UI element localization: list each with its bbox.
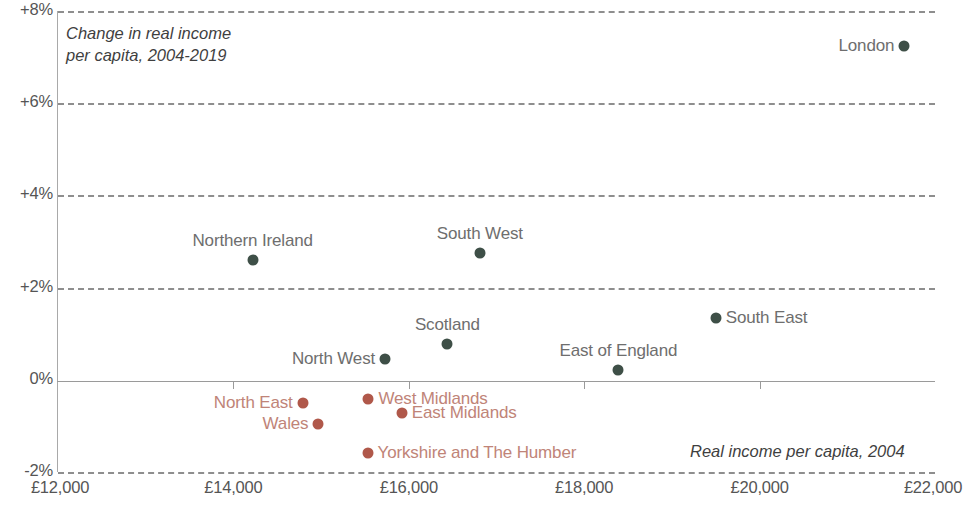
scatter-chart: +8%+6%+4%+2%0%-2% £12,000£14,000£16,000£… xyxy=(0,0,970,506)
y-tick-label-0%: 0% xyxy=(30,369,53,388)
data-point-london[interactable] xyxy=(899,40,910,51)
gridline-6 xyxy=(58,103,935,105)
data-point-east-of-england[interactable] xyxy=(613,364,624,375)
x-tick-label-14000: £14,000 xyxy=(204,478,262,497)
y-axis-title-line-2: per capita, 2004-2019 xyxy=(66,44,231,66)
data-point-label-east-of-england: East of England xyxy=(560,341,678,361)
y-tick-label-+8%: +8% xyxy=(20,0,53,19)
gridline-8 xyxy=(58,11,935,13)
x-tick-mark-14000 xyxy=(233,382,234,389)
data-point-wales[interactable] xyxy=(313,418,324,429)
x-axis-title: Real income per capita, 2004 xyxy=(690,440,905,462)
x-tick-mark-20000 xyxy=(760,382,761,389)
x-tick-label-18000: £18,000 xyxy=(555,478,613,497)
x-tick-label-12000: £12,000 xyxy=(31,478,89,497)
x-tick-label-16000: £16,000 xyxy=(380,478,438,497)
data-point-label-east-midlands: East Midlands xyxy=(412,403,517,423)
data-point-south-east[interactable] xyxy=(710,312,721,323)
data-point-west-midlands[interactable] xyxy=(363,394,374,405)
data-point-label-yorkshire-and-the-humber: Yorkshire and The Humber xyxy=(378,443,577,463)
x-tick-mark-16000 xyxy=(409,382,410,389)
gridline-2 xyxy=(58,288,935,290)
y-tick-label-+2%: +2% xyxy=(20,277,53,296)
data-point-south-west[interactable] xyxy=(474,248,485,259)
data-point-northern-ireland[interactable] xyxy=(247,254,258,265)
data-point-label-scotland: Scotland xyxy=(415,315,480,335)
x-tick-label-22000: £22,000 xyxy=(904,478,962,497)
data-point-label-north-east: North East xyxy=(214,393,293,413)
x-tick-label-20000: £20,000 xyxy=(730,478,788,497)
gridline-4 xyxy=(58,195,935,197)
data-point-north-east[interactable] xyxy=(297,397,308,408)
data-point-label-wales: Wales xyxy=(263,414,309,434)
y-tick-label-+6%: +6% xyxy=(20,92,53,111)
data-point-scotland[interactable] xyxy=(442,338,453,349)
y-tick-label-+4%: +4% xyxy=(20,184,53,203)
data-point-label-south-east: South East xyxy=(726,308,808,328)
x-axis-zero-line xyxy=(57,381,935,382)
data-point-label-south-west: South West xyxy=(437,224,523,244)
data-point-yorkshire-and-the-humber[interactable] xyxy=(362,447,373,458)
data-point-label-north-west: North West xyxy=(292,349,375,369)
x-tick-mark-18000 xyxy=(584,382,585,389)
data-point-label-northern-ireland: Northern Ireland xyxy=(192,231,312,251)
y-axis-title: Change in real income per capita, 2004-2… xyxy=(66,22,231,67)
data-point-north-west[interactable] xyxy=(380,354,391,365)
y-axis-title-line-1: Change in real income xyxy=(66,22,231,44)
gridline--2 xyxy=(58,472,935,474)
data-point-label-london: London xyxy=(838,36,894,56)
data-point-east-midlands[interactable] xyxy=(396,407,407,418)
y-axis-line xyxy=(57,11,58,472)
